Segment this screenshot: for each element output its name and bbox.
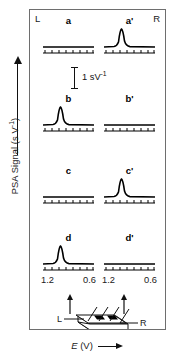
trace-curve-c-prime [102, 177, 157, 211]
device-lead-label-left: L [57, 314, 62, 324]
x-axis-unit: (V) [80, 340, 93, 351]
trace-label-d: d [41, 232, 96, 243]
scale-bar-cap-top [71, 67, 78, 68]
trace-label-c: c [41, 165, 96, 176]
trace-panel-a: a [41, 15, 96, 61]
plot-frame: L R a a' b [29, 9, 166, 330]
trace-curve-b [41, 105, 96, 139]
scale-bar-label: 1 sV-1 [82, 70, 107, 82]
scale-bar-cap-bottom [71, 88, 78, 89]
right-arrow-icon [98, 343, 124, 350]
trace-curve-a [41, 27, 96, 61]
tick-label-row-left: 1.2 0.6 [41, 275, 96, 287]
tick-label-right-1p2: 1.2 [102, 275, 115, 285]
trace-curve-d-prime [102, 244, 157, 278]
y-axis-label: PSA Signal (s V-1) [8, 56, 20, 256]
trace-panel-d-prime: d' [102, 232, 157, 278]
device-lead-label-right: R [140, 318, 147, 328]
trace-curve-a-prime [102, 27, 157, 61]
device-svg: L R [50, 293, 150, 329]
x-axis-symbol: E [71, 340, 77, 351]
device-arrow-left [67, 294, 73, 314]
trace-label-a-prime: a' [102, 15, 157, 26]
trace-panel-d: d [41, 232, 96, 278]
tick-label-right-0p6: 0.6 [144, 275, 157, 285]
trace-panel-a-prime: a' [102, 15, 157, 61]
trace-curve-c [41, 177, 96, 211]
corner-label-left: L [35, 13, 40, 24]
y-axis-group: PSA Signal (s V-1) [0, 55, 26, 295]
scale-bar-line [74, 67, 75, 89]
device-arrow-right [121, 294, 127, 314]
trace-curve-b-prime [102, 105, 157, 139]
x-axis-label: E (V) [29, 340, 166, 351]
trace-label-d-prime: d' [102, 232, 157, 243]
device-schematic: L R [50, 293, 150, 329]
trace-panel-b: b [41, 93, 96, 139]
trace-curve-d [41, 244, 96, 278]
trace-panel-b-prime: b' [102, 93, 157, 139]
trace-label-a: a [41, 15, 96, 26]
trace-panel-c-prime: c' [102, 165, 157, 211]
tick-label-row-right: 1.2 0.6 [102, 275, 157, 287]
trace-label-c-prime: c' [102, 165, 157, 176]
tick-label-left-0p6: 0.6 [83, 275, 96, 285]
trace-panel-c: c [41, 165, 96, 211]
scale-bar: 1 sV-1 [71, 65, 131, 95]
tick-label-left-1p2: 1.2 [41, 275, 54, 285]
